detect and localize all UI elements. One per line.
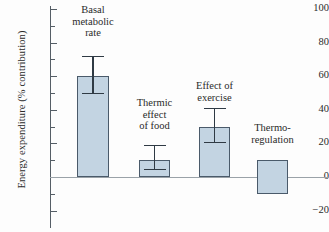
error-bar-cap-lower xyxy=(204,142,226,143)
error-bar-cap-lower xyxy=(82,93,104,94)
error-bar-cap-upper xyxy=(144,145,166,146)
error-bar-cap-lower xyxy=(144,169,166,170)
bar-caption: Effect of exercise xyxy=(175,80,255,103)
chart-figure: Energy expenditure (% contribution) 1008… xyxy=(0,0,329,232)
error-bar-line xyxy=(92,56,93,93)
plot-area: Basal metabolic rateThermic effect of fo… xyxy=(0,0,329,232)
bar-caption: Basal metabolic rate xyxy=(53,4,133,39)
bar-caption: Thermo- regulation xyxy=(233,122,313,145)
error-bar-cap-upper xyxy=(82,56,104,57)
error-bar-line xyxy=(154,145,155,169)
error-bar-line xyxy=(214,108,215,142)
bar xyxy=(257,160,288,194)
error-bar-cap-upper xyxy=(204,108,226,109)
